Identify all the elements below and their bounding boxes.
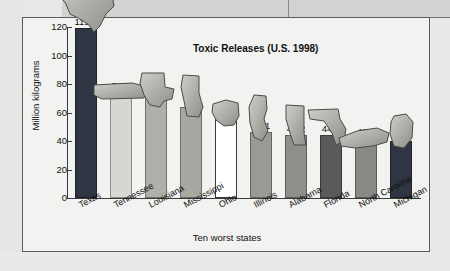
y-axis-tick-value: 80 (33, 79, 67, 88)
y-axis-tick (67, 56, 72, 57)
chart-screenshot: Toxic Releases (U.S. 1998) Million kilog… (0, 0, 450, 271)
y-axis-tick-label: 60 (23, 108, 67, 117)
chart-title: Toxic Releases (U.S. 1998) (193, 43, 318, 54)
bar[interactable]: 46.1 (250, 132, 272, 198)
bar-value-label: 46.1 (252, 120, 271, 131)
bar[interactable]: 44.1 (320, 135, 342, 198)
page-bottom-margin (0, 252, 450, 271)
y-axis-tick-value: 100 (33, 51, 67, 60)
bar-value-label: 70.2 (147, 86, 166, 97)
y-axis-tick-value: 20 (33, 165, 67, 174)
x-axis-label: Ten worst states (23, 232, 431, 243)
figure-panel: Toxic Releases (U.S. 1998) Million kilog… (22, 17, 430, 252)
plot-area: Toxic Releases (U.S. 1998) Million kilog… (23, 18, 431, 253)
y-axis-tick-label: 20 (23, 165, 67, 174)
y-axis-tick (67, 27, 72, 28)
y-axis-tick (67, 84, 72, 85)
bar-value-label: 64 (186, 95, 197, 106)
page-top-band (62, 0, 450, 18)
bar-value-label: 74.6 (112, 80, 131, 91)
y-axis-tick-value: 60 (33, 108, 67, 117)
y-axis-tick-label: 100 (23, 51, 67, 60)
y-axis-tick-label: 80 (23, 79, 67, 88)
top-band-divider (288, 0, 289, 17)
bar-value-label: 56.7 (217, 105, 236, 116)
bar[interactable]: 44.2 (285, 135, 307, 198)
bar-value-label: 40.1 (392, 129, 411, 140)
bar-value-label: 44.2 (287, 123, 306, 134)
y-axis-tick-value: 0 (33, 193, 67, 202)
y-axis-tick (67, 198, 72, 199)
y-axis-tick-label: 0 (23, 193, 67, 202)
bar-value-label: 119.2 (74, 16, 97, 27)
y-axis-tick (67, 170, 72, 171)
y-axis-tick-label: 40 (23, 136, 67, 145)
page-left-margin (0, 0, 22, 271)
bar[interactable]: 64 (180, 107, 202, 198)
bar-value-label: 42.1 (357, 126, 376, 137)
y-axis-tick (67, 113, 72, 114)
bar[interactable]: 119.2 (75, 28, 97, 198)
bar[interactable]: 42.1 (355, 138, 377, 198)
bar-value-label: 44.1 (322, 123, 341, 134)
y-axis-tick (67, 141, 72, 142)
y-axis-tick-value: 40 (33, 136, 67, 145)
y-axis-tick-label: 120 (23, 22, 67, 31)
bar[interactable]: 74.6 (110, 92, 132, 198)
y-axis-tick-value: 120 (33, 22, 67, 31)
